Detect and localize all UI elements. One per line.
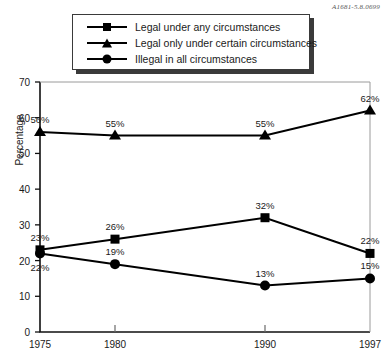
- circle-data-point: [35, 248, 45, 258]
- x-axis-tick-label: 1975: [29, 339, 51, 350]
- triangle-data-point: [364, 105, 376, 115]
- y-axis-tick-label: 50: [8, 148, 30, 159]
- y-axis-tick-label: 70: [8, 77, 30, 88]
- x-axis-tick-label: 1980: [104, 339, 126, 350]
- x-axis-tick-label: 1990: [254, 339, 276, 350]
- triangle-data-point: [34, 126, 46, 136]
- y-axis-tick-label: 40: [8, 184, 30, 195]
- square-data-point: [366, 249, 375, 258]
- square-data-point: [261, 213, 270, 222]
- circle-data-point: [260, 281, 270, 291]
- axis-frame: [40, 82, 370, 332]
- data-point-label: 15%: [360, 260, 379, 271]
- data-point-label: 32%: [255, 200, 274, 211]
- data-point-label: 56%: [30, 114, 49, 125]
- series-line: [40, 111, 370, 136]
- x-axis-tick-label: 1997: [359, 339, 381, 350]
- data-point-label: 22%: [30, 262, 49, 273]
- y-axis-tick-label: 10: [8, 291, 30, 302]
- data-point-label: 26%: [105, 221, 124, 232]
- data-point-label: 23%: [30, 232, 49, 243]
- data-point-label: 19%: [105, 246, 124, 257]
- data-point-label: 55%: [105, 118, 124, 129]
- circle-data-point: [110, 259, 120, 269]
- circle-data-point: [365, 273, 375, 283]
- square-data-point: [111, 235, 120, 244]
- plot-border: [40, 82, 370, 332]
- data-point-label: 22%: [360, 235, 379, 246]
- data-point-label: 62%: [360, 93, 379, 104]
- data-point-label: 13%: [255, 268, 274, 279]
- y-axis-tick-label: 30: [8, 219, 30, 230]
- y-axis-tick-label: 0: [8, 327, 30, 338]
- chart-svg: [0, 0, 384, 357]
- data-point-label: 55%: [255, 118, 274, 129]
- y-axis-tick-label: 60: [8, 112, 30, 123]
- series-line: [40, 253, 370, 285]
- y-axis-tick-label: 20: [8, 255, 30, 266]
- series-line: [40, 218, 370, 254]
- line-chart-plot: 010203040506070197519801990199723%26%32%…: [0, 0, 384, 357]
